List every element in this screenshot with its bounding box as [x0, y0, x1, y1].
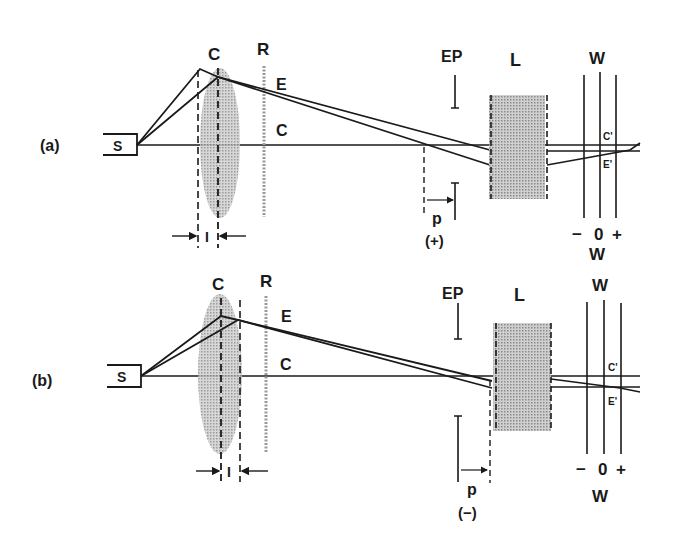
source-s: S [107, 365, 141, 387]
ray-path-1 [137, 69, 490, 165]
ep-marker-top [454, 303, 462, 339]
screen-label-bottom: W [589, 245, 606, 264]
lens-c-label: C [208, 45, 220, 64]
ep-marker-bottom [451, 183, 459, 220]
source-s: S [103, 134, 137, 155]
scale-plus: + [612, 225, 622, 244]
p-label: p [432, 210, 442, 227]
spacing-label: I [227, 464, 231, 480]
lens-l-label: L [510, 50, 521, 70]
image-e-label: E' [603, 159, 612, 170]
ep-label: EP [442, 285, 464, 302]
ray-after-l-2 [551, 379, 640, 392]
screen-label-top: W [592, 276, 609, 295]
ring-r-label: R [257, 40, 269, 59]
lens-c [198, 294, 242, 454]
panel-label-b: (b) [32, 372, 52, 389]
ray-after-l-2 [547, 143, 640, 165]
ray-path-2 [137, 77, 490, 150]
p-sign: (−) [458, 504, 477, 521]
ep-label: EP [441, 48, 463, 65]
ray-c-label: C [280, 356, 292, 373]
lens-c-label: C [212, 275, 224, 294]
screen-label-top: W [589, 49, 606, 68]
lens-l [489, 95, 545, 199]
scale-minus: − [576, 460, 586, 479]
image-c-label: C' [608, 362, 618, 373]
ray-e-label: E [276, 76, 287, 93]
lens-l [493, 323, 551, 431]
panel-b: (b) S C R E C I EP p (−) L [32, 272, 640, 521]
image-c-label: C' [603, 131, 613, 142]
p-label: p [467, 481, 477, 498]
ray-path-1 [141, 316, 492, 381]
source-label: S [113, 138, 122, 154]
spacing-indicator: I [196, 464, 268, 480]
scale-minus: − [572, 225, 582, 244]
ring-r-label: R [260, 272, 272, 291]
spacing-label: I [205, 229, 209, 245]
scale-plus: + [616, 460, 626, 479]
scale-zero: 0 [598, 460, 607, 479]
spacing-indicator: I [172, 229, 246, 245]
ep-marker-top [451, 75, 459, 108]
panel-label-a: (a) [40, 137, 60, 154]
scale-zero: 0 [594, 225, 603, 244]
ray-path-2 [141, 320, 492, 388]
lens-c [200, 68, 240, 218]
optical-diagram: (a) S C R E C I EP p [0, 0, 678, 551]
screen-label-bottom: W [592, 487, 609, 506]
image-e-label: E' [608, 396, 617, 407]
ray-c-label: C [276, 122, 288, 139]
ray-e-label: E [281, 308, 292, 325]
p-sign: (+) [425, 232, 444, 249]
ep-marker-bottom [454, 416, 462, 482]
source-label: S [117, 369, 126, 385]
lens-l-label: L [514, 285, 525, 305]
panel-a: (a) S C R E C I EP p [40, 40, 640, 264]
